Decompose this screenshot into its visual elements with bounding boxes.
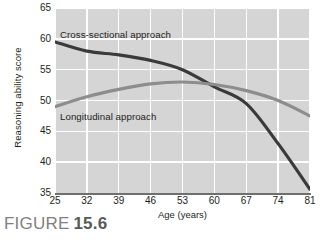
series-label-cross-sectional: Cross-sectional approach bbox=[60, 30, 171, 40]
figure-container: Reasoning ability score 65605550454035 C… bbox=[0, 0, 320, 240]
plot-area: Cross-sectional approach Longitudinal ap… bbox=[55, 8, 310, 193]
x-axis-tick-label: 53 bbox=[177, 196, 188, 206]
y-axis-tick-label: 45 bbox=[40, 126, 51, 136]
x-axis-tick-label: 67 bbox=[241, 196, 252, 206]
y-axis-title: Reasoning ability score bbox=[12, 18, 23, 178]
x-axis-tick-label: 81 bbox=[304, 196, 315, 206]
figure-caption-word: FIGURE bbox=[4, 214, 69, 233]
figure-caption: FIGURE15.6 bbox=[4, 214, 107, 234]
chart: Reasoning ability score 65605550454035 C… bbox=[0, 0, 320, 206]
y-axis-tick-label: 40 bbox=[40, 157, 51, 167]
figure-caption-number: 15.6 bbox=[73, 214, 107, 233]
y-axis-tick-label: 65 bbox=[40, 3, 51, 13]
x-axis-tick-label: 25 bbox=[49, 196, 60, 206]
series-label-longitudinal: Longitudinal approach bbox=[60, 112, 156, 122]
y-axis-tick-label: 55 bbox=[40, 65, 51, 75]
y-axis-tick-label: 60 bbox=[40, 34, 51, 44]
y-axis-tick-labels: 65605550454035 bbox=[26, 8, 51, 193]
x-axis-tick-label: 32 bbox=[81, 196, 92, 206]
series-annotations: Cross-sectional approach Longitudinal ap… bbox=[55, 8, 310, 193]
y-axis-tick-label: 50 bbox=[40, 96, 51, 106]
x-axis-tick-label: 74 bbox=[273, 196, 284, 206]
x-axis-tick-label: 60 bbox=[209, 196, 220, 206]
x-axis-tick-labels: 253239465360677481 bbox=[55, 196, 310, 210]
x-axis-tick-label: 46 bbox=[145, 196, 156, 206]
x-axis-tick-label: 39 bbox=[113, 196, 124, 206]
